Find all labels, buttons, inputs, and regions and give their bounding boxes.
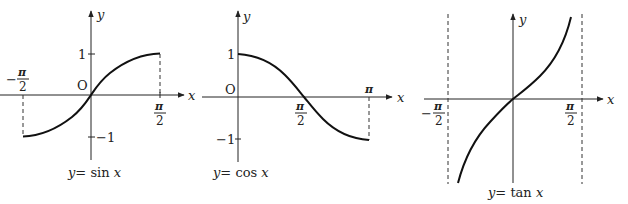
cos-y-axis-label: y [242,9,251,24]
tan-pos-pi: π [565,100,575,113]
cos-caption: y= cos x [212,165,269,180]
cos-graph: x y O 1 −1 π 2 π y= cos x [202,9,405,180]
cos-origin-label: O [225,82,236,97]
tan-neg-pi: π [433,100,443,113]
tan-neg-sign: − [421,106,432,121]
sin-pos-den: 2 [156,114,164,128]
sin-neg-den: 2 [19,80,27,94]
tan-neg-den: 2 [435,114,443,128]
tan-x-axis-label: x [607,92,615,107]
sin-caption: y= sin x [67,165,122,180]
cos-tick-1-label: 1 [227,47,235,62]
tan-curve [458,17,571,183]
sin-origin-label: O [77,78,88,93]
cos-mid-den: 2 [297,114,305,128]
tan-y-axis-label: y [518,12,527,27]
sin-tick-1-label: 1 [78,47,86,62]
tan-graph: x y − π 2 π 2 y= tan x [421,12,615,200]
sin-graph: x y O 1 −1 − π 2 π 2 y= sin x [0,7,196,180]
sin-neg-pi: π [17,66,27,79]
cos-x-axis-label: x [397,90,405,105]
sin-tick-neg1-label: −1 [96,130,115,145]
trig-graphs-figure: x y O 1 −1 − π 2 π 2 y= sin x x y O [0,0,628,204]
tan-pos-den: 2 [567,114,575,128]
cos-mid-pi: π [295,100,305,113]
tan-caption: y= tan x [487,185,544,200]
sin-neg-sign: − [6,72,17,87]
cos-tick-neg1-label: −1 [216,132,235,147]
sin-x-axis-label: x [188,88,196,103]
cos-end-pi: π [364,83,374,96]
sin-y-axis-label: y [96,7,105,22]
sin-pos-pi: π [154,100,164,113]
